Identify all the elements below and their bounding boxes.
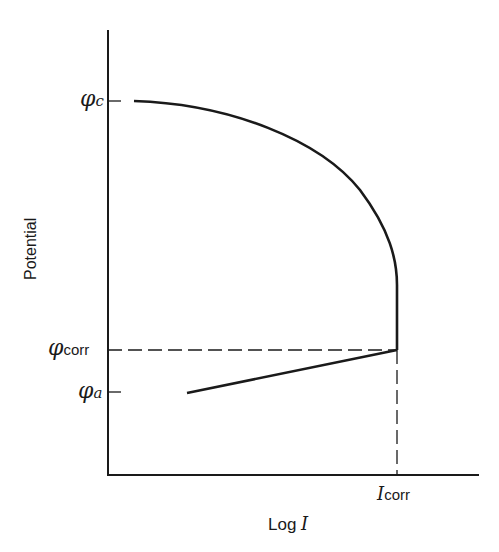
phi-a-label: φa [78,378,102,403]
cathodic-curve [134,101,397,350]
phi-corr-label: φcorr [48,335,89,360]
i-corr-label: Icorr [377,483,410,504]
polarization-diagram [0,0,499,552]
anodic-line [187,350,397,393]
phi-c-label: φc [80,86,104,111]
x-axis-label: Log I [268,513,308,535]
y-axis-label: Potential [22,218,40,280]
